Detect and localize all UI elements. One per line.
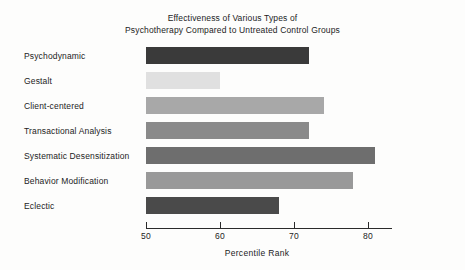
x-axis-tick — [220, 222, 221, 228]
bar[interactable] — [146, 122, 309, 139]
x-axis-tick — [294, 222, 295, 228]
bar[interactable] — [146, 72, 220, 89]
bar[interactable] — [146, 197, 279, 214]
category-label: Systematic Desensitization — [24, 151, 129, 161]
x-axis-title: Percentile Rank — [146, 248, 368, 258]
category-label: Transactional Analysis — [24, 126, 112, 136]
bar[interactable] — [146, 97, 324, 114]
category-label: Client-centered — [24, 101, 84, 111]
x-axis-tick — [368, 222, 369, 228]
bar[interactable] — [146, 147, 375, 164]
chart-container: Effectiveness of Various Types of Psycho… — [0, 0, 465, 270]
x-axis-tick-label: 70 — [289, 231, 299, 241]
chart-title: Effectiveness of Various Types of Psycho… — [0, 12, 465, 36]
bar[interactable] — [146, 172, 353, 189]
chart-title-line-1: Effectiveness of Various Types of — [0, 12, 465, 24]
plot-area — [146, 47, 368, 222]
x-axis-tick-label: 50 — [141, 231, 151, 241]
category-label: Behavior Modification — [24, 176, 108, 186]
x-axis-tick — [146, 222, 147, 228]
x-axis-tick-label: 80 — [363, 231, 373, 241]
bar[interactable] — [146, 47, 309, 64]
x-axis-tick-label: 60 — [215, 231, 225, 241]
category-label: Psychodynamic — [24, 51, 85, 61]
chart-title-line-2: Psychotherapy Compared to Untreated Cont… — [0, 24, 465, 36]
category-label: Eclectic — [24, 201, 55, 211]
category-label: Gestalt — [24, 76, 52, 86]
x-axis-line — [146, 228, 392, 229]
